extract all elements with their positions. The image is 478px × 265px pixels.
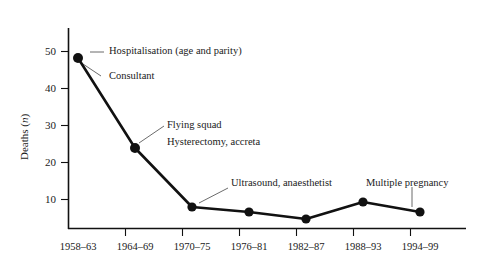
- y-tick-label-30: 30: [30, 119, 56, 132]
- x-tick-label-1988-93: 1988–93: [332, 241, 394, 253]
- annotation-flying-squad: Flying squad: [167, 119, 222, 131]
- y-axis-title-italic-n: n: [18, 118, 30, 124]
- y-tick-label-20: 20: [30, 156, 56, 169]
- leader-ultrasound: [199, 188, 228, 203]
- x-tick-label-1982-87: 1982–87: [275, 241, 337, 253]
- data-point-1958-63: [73, 53, 83, 63]
- y-axis-title-text: Deaths (: [18, 123, 30, 160]
- y-tick-label-50: 50: [30, 45, 56, 58]
- annotation-hysterectomy-accreta: Hysterectomy, accreta: [167, 136, 260, 148]
- y-tick-label-40: 40: [30, 82, 56, 95]
- annotation-multiple-pregnancy: Multiple pregnancy: [366, 177, 449, 189]
- chart-figure: Deaths (n) 50 40 30 20 10 1958–63 1964–6…: [0, 0, 478, 265]
- leader-flying-squad: [139, 126, 164, 143]
- y-tick-label-10: 10: [30, 193, 56, 206]
- data-point-1964-69: [130, 143, 140, 153]
- x-tick-label-1964-69: 1964–69: [104, 241, 166, 253]
- data-point-1970-75: [187, 202, 196, 211]
- x-tick-label-1976-81: 1976–81: [218, 241, 280, 253]
- annotation-hospitalisation: Hospitalisation (age and parity): [109, 45, 242, 57]
- data-point-1976-81: [244, 207, 253, 216]
- x-tick-label-1970-75: 1970–75: [161, 241, 223, 253]
- annotation-ultrasound-anaesthetist: Ultrasound, anaesthetist: [231, 177, 332, 189]
- data-point-1988-93: [358, 197, 367, 206]
- y-axis-title-paren: ): [18, 114, 30, 118]
- x-tick-label-1958-63: 1958–63: [47, 241, 109, 253]
- y-axis-title: Deaths (n): [18, 114, 31, 160]
- annotation-consultant: Consultant: [109, 70, 155, 82]
- line-chart-plot: [0, 0, 478, 265]
- data-point-1982-87: [301, 214, 310, 223]
- x-tick-label-1994-99: 1994–99: [389, 241, 451, 253]
- data-point-1994-99: [415, 207, 424, 216]
